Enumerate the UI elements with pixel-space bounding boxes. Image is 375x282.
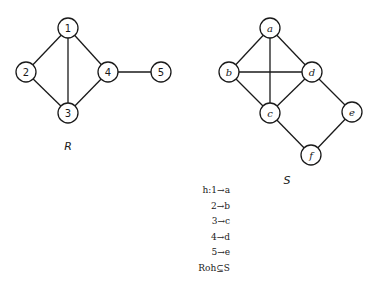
mapping-line-4: 4→d — [150, 230, 230, 246]
node-label: a — [267, 23, 273, 34]
edges-layer — [26, 28, 352, 155]
node-R-1: 1 — [58, 18, 78, 38]
mapping-line-3: 3→c — [150, 214, 230, 230]
node-label: 5 — [158, 67, 164, 78]
graph-label-R: R — [64, 140, 72, 153]
node-label: 3 — [65, 108, 71, 119]
node-R-3: 3 — [58, 103, 78, 123]
mapping-line-2: 2→b — [150, 199, 230, 215]
mapping-line-5: 5→e — [150, 245, 230, 261]
node-label: d — [309, 67, 315, 78]
homomorphism-mapping: h:1→a 2→b 3→c 4→d 5→e Roh⊆S — [150, 183, 230, 276]
mapping-line-1: h:1→a — [150, 183, 230, 199]
node-S-c: c — [260, 103, 280, 123]
node-S-f: f — [301, 145, 321, 165]
node-S-d: d — [302, 62, 322, 82]
mapping-conclusion: Roh⊆S — [150, 261, 230, 277]
node-R-5: 5 — [151, 62, 171, 82]
node-label: 1 — [65, 23, 71, 34]
graph-label-S: S — [284, 174, 291, 187]
node-R-4: 4 — [98, 62, 118, 82]
node-R-2: 2 — [16, 62, 36, 82]
node-S-e: e — [342, 102, 362, 122]
node-label: 2 — [23, 67, 29, 78]
node-S-b: b — [219, 62, 239, 82]
node-label: c — [267, 108, 273, 119]
node-label: e — [349, 107, 355, 118]
node-S-a: a — [260, 18, 280, 38]
graph-labels-layer: RS — [64, 140, 290, 187]
node-label: 4 — [105, 67, 111, 78]
node-label: b — [226, 67, 232, 78]
